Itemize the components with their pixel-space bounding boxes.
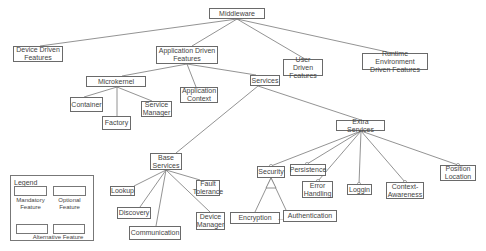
node-services: Services	[250, 75, 280, 86]
node-discovery: Discovery	[117, 207, 151, 219]
legend-alternative-box-left	[16, 224, 48, 234]
node-fault-tolerance: Fault Tolerance	[196, 180, 220, 196]
node-communication: Communication	[129, 226, 181, 240]
legend-mandatory-label: Mandatory Feature	[14, 197, 47, 211]
node-loggin: Loggin	[347, 184, 372, 195]
node-security: Security	[257, 166, 285, 178]
node-runtime-environment-driven-features: Runtime Environment Driven Features	[362, 53, 428, 70]
node-extra-services: Extra Services	[336, 120, 385, 131]
legend: Legend Mandatory Feature Optional Featur…	[10, 175, 94, 241]
node-base-services: Base Services	[150, 153, 182, 170]
node-application-driven-features: Application Driven Features	[156, 46, 218, 64]
node-device-manager: Device Manager	[196, 212, 225, 230]
alternative-triangle-icon	[266, 178, 276, 188]
node-user-driven-features: User Driven Features	[283, 59, 323, 76]
legend-optional-box	[53, 186, 86, 196]
legend-title: Legend	[14, 179, 37, 186]
node-authentication: Authentication	[283, 210, 337, 222]
node-service-manager: Service Manager	[141, 101, 172, 117]
node-microkernel: Microkernel	[86, 76, 146, 87]
node-persistence: Persistence	[290, 164, 326, 176]
node-position-location: Position Location	[440, 165, 476, 181]
node-lookup: Lookup	[110, 186, 135, 196]
node-encryption: Encryption	[230, 212, 280, 224]
node-container: Container	[70, 97, 103, 112]
node-error-handling: Error Handling	[302, 181, 333, 198]
node-factory: Factory	[102, 116, 131, 130]
legend-alternative-label: Alternative Feature	[21, 234, 95, 241]
legend-optional-label: Optional Feature	[53, 197, 86, 211]
node-middleware: Middleware	[209, 8, 265, 19]
node-device-driven-features: Device Driven Features	[13, 46, 63, 62]
node-context-awareness: Context- Awareness	[386, 182, 424, 199]
node-application-context: Application Context	[180, 87, 218, 103]
legend-alternative-box-right	[53, 224, 85, 234]
legend-mandatory-box	[14, 186, 47, 196]
